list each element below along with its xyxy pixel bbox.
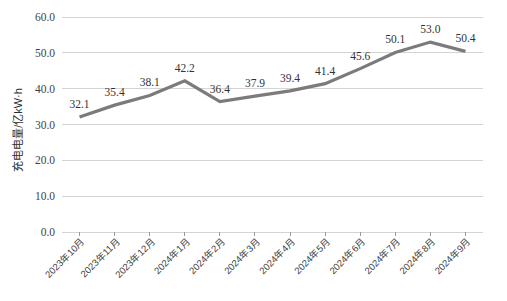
data-point-label: 32.1	[69, 98, 89, 110]
gridlines-group	[62, 17, 483, 232]
data-point-label: 50.4	[455, 32, 475, 44]
y-axis-tick-label: 20.0	[35, 154, 55, 166]
y-axis-tick-label: 50.0	[35, 47, 55, 59]
y-axis-tick-labels: 0.010.020.030.040.050.060.0	[35, 11, 55, 238]
x-axis-tick-label: 2024年5月	[292, 236, 333, 277]
data-point-label: 37.9	[245, 77, 265, 89]
y-axis-tick-label: 10.0	[35, 190, 55, 202]
x-axis-tick-marks	[80, 232, 466, 236]
x-axis-tick-label: 2024年8月	[397, 236, 438, 277]
y-axis-title: 充电电量/亿kW·h	[11, 88, 24, 172]
data-point-label: 45.6	[350, 50, 370, 62]
data-point-labels: 32.135.438.142.236.437.939.441.445.650.1…	[69, 23, 475, 110]
line-chart: 0.010.020.030.040.050.060.0 32.135.438.1…	[0, 0, 507, 301]
x-axis-tick-labels: 2023年10月2023年11月2023年12月2024年1月2024年2月20…	[43, 236, 473, 280]
data-point-label: 39.4	[280, 72, 300, 84]
chart-canvas: 0.010.020.030.040.050.060.0 32.135.438.1…	[0, 0, 507, 301]
y-axis-tick-label: 40.0	[35, 83, 55, 95]
data-point-label: 53.0	[420, 23, 440, 35]
data-point-label: 41.4	[315, 65, 335, 77]
x-axis-tick-label: 2024年6月	[327, 236, 368, 277]
x-axis-tick-label: 2024年9月	[432, 236, 473, 277]
x-axis-tick-label: 2024年7月	[362, 236, 403, 277]
x-axis-tick-label: 2024年1月	[152, 236, 193, 277]
x-axis-tick-label: 2024年4月	[257, 236, 298, 277]
y-axis-tick-label: 60.0	[35, 11, 55, 23]
data-point-label: 50.1	[385, 33, 405, 45]
data-point-label: 35.4	[105, 86, 125, 98]
x-axis-tick-label: 2024年3月	[222, 236, 263, 277]
data-point-label: 42.2	[175, 62, 195, 74]
x-axis-tick-label: 2024年2月	[187, 236, 228, 277]
y-axis-tick-label: 30.0	[35, 119, 55, 131]
data-point-label: 36.4	[210, 83, 230, 95]
data-point-label: 38.1	[140, 76, 160, 88]
y-axis-tick-label: 0.0	[41, 226, 56, 238]
